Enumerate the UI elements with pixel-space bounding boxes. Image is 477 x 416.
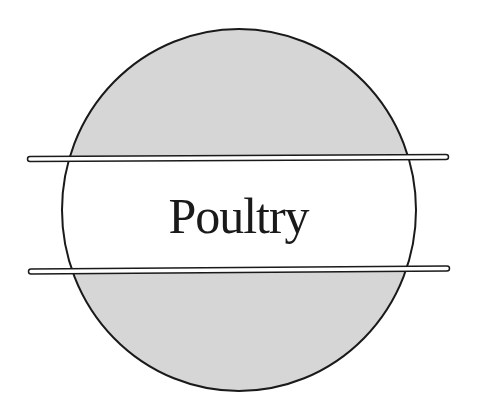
emblem-title: Poultry [0, 186, 477, 246]
poultry-emblem: Poultry [0, 0, 477, 416]
upper-bar [28, 155, 449, 162]
